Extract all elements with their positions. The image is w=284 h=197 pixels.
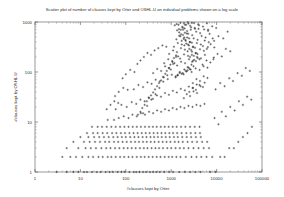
- data-point: [193, 37, 195, 39]
- data-point: [121, 136, 123, 138]
- data-point: [178, 171, 180, 173]
- data-point: [198, 126, 200, 128]
- data-point: [148, 132, 150, 134]
- data-point: [143, 100, 145, 102]
- data-point: [229, 106, 231, 108]
- data-point: [135, 147, 137, 149]
- data-point: [97, 126, 99, 128]
- data-point: [160, 96, 162, 98]
- data-point: [123, 156, 125, 158]
- data-point: [129, 136, 131, 138]
- data-point: [113, 141, 115, 143]
- data-point: [101, 126, 103, 128]
- data-point: [191, 54, 193, 56]
- data-point: [178, 35, 180, 37]
- data-point: [174, 76, 176, 78]
- data-point: [97, 132, 99, 134]
- data-point: [91, 126, 93, 128]
- data-point: [105, 171, 107, 173]
- data-point: [156, 132, 158, 134]
- data-point: [196, 92, 198, 94]
- data-point: [129, 69, 131, 71]
- data-point: [190, 156, 192, 158]
- data-point: [169, 136, 171, 138]
- data-point: [141, 107, 143, 109]
- data-point: [179, 35, 181, 37]
- data-point: [223, 156, 225, 158]
- data-point: [157, 47, 159, 49]
- data-point: [163, 171, 165, 173]
- data-point: [149, 136, 151, 138]
- data-point: [183, 97, 185, 99]
- data-point: [174, 24, 176, 26]
- data-point: [175, 156, 177, 158]
- data-point: [165, 46, 167, 48]
- data-point: [106, 108, 108, 110]
- data-point: [166, 70, 168, 72]
- data-point: [125, 73, 127, 75]
- data-point: [242, 136, 244, 138]
- data-point: [187, 105, 189, 107]
- data-point: [199, 132, 201, 134]
- data-point: [172, 132, 174, 134]
- data-point: [168, 126, 170, 128]
- data-point: [144, 126, 146, 128]
- data-point: [108, 141, 110, 143]
- data-point: [96, 171, 98, 173]
- data-point: [179, 147, 181, 149]
- data-point: [199, 171, 201, 173]
- data-point: [217, 123, 219, 125]
- data-point: [152, 91, 154, 93]
- data-point: [146, 147, 148, 149]
- x-tick-label: 10: [78, 176, 83, 181]
- data-point: [199, 48, 201, 50]
- data-point: [172, 107, 174, 109]
- data-point: [158, 147, 160, 149]
- data-point: [216, 53, 218, 55]
- data-point: [208, 41, 210, 43]
- data-point: [177, 55, 179, 57]
- data-point: [165, 136, 167, 138]
- data-point: [108, 136, 110, 138]
- data-point: [145, 136, 147, 138]
- data-point: [159, 156, 161, 158]
- data-point: [121, 141, 123, 143]
- data-point: [118, 147, 120, 149]
- data-point: [194, 171, 196, 173]
- data-point: [189, 171, 191, 173]
- data-point: [190, 132, 192, 134]
- data-point: [156, 68, 158, 70]
- data-point: [180, 88, 182, 90]
- data-point: [194, 67, 196, 69]
- data-point: [135, 103, 137, 105]
- data-point: [151, 156, 153, 158]
- data-point: [90, 147, 92, 149]
- data-point: [213, 46, 215, 48]
- data-point: [221, 55, 223, 57]
- tick-marks: [35, 22, 262, 172]
- y-tick-label: 1: [30, 170, 33, 175]
- data-point: [139, 147, 141, 149]
- data-point: [137, 136, 139, 138]
- data-point: [66, 171, 68, 173]
- data-point: [104, 141, 106, 143]
- data-point: [127, 147, 129, 149]
- data-point: [195, 31, 197, 33]
- data-point: [84, 147, 86, 149]
- data-point: [121, 77, 123, 79]
- data-point: [102, 132, 104, 134]
- data-point: [92, 156, 94, 158]
- data-point: [72, 171, 74, 173]
- data-point: [142, 171, 144, 173]
- data-point: [186, 30, 188, 32]
- data-point: [187, 147, 189, 149]
- data-point: [237, 141, 239, 143]
- data-point: [211, 156, 213, 158]
- data-point: [168, 171, 170, 173]
- data-point: [156, 156, 158, 158]
- data-point: [192, 46, 194, 48]
- data-point: [156, 126, 158, 128]
- data-point: [206, 141, 208, 143]
- data-point: [128, 132, 130, 134]
- data-point: [229, 50, 231, 52]
